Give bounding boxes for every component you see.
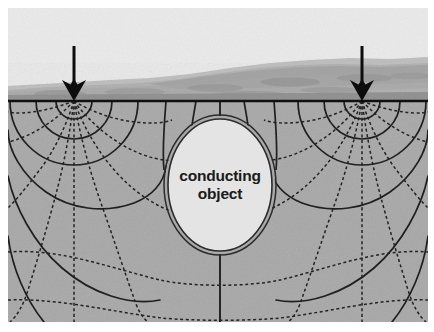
conducting-object-label-line2: object	[198, 185, 242, 202]
conducting-object: conducting object	[164, 115, 276, 255]
figure-root: conducting object	[0, 0, 434, 332]
conducting-object-label-line1: conducting	[179, 167, 261, 184]
diagram-canvas: conducting object	[0, 0, 434, 332]
